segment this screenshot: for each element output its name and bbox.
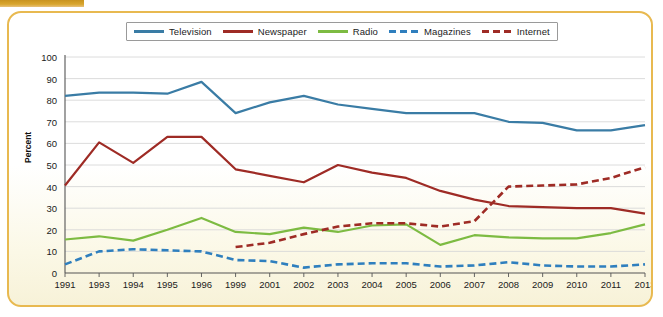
y-tick-label: 50 [31, 160, 57, 171]
x-tick-label: 1996 [191, 279, 212, 290]
legend-swatch-newspaper-icon [223, 30, 253, 33]
x-tick-label: 2008 [498, 279, 519, 290]
plot-area: Percent 0102030405060708090100 199119931… [9, 51, 653, 303]
legend-label: Television [169, 26, 212, 37]
x-tick-label: 1991 [54, 279, 75, 290]
series-line-radio [65, 218, 645, 245]
legend-item-magazines: Magazines [389, 26, 471, 37]
y-tick-label: 90 [31, 73, 57, 84]
x-tick-label: 2002 [293, 279, 314, 290]
legend-swatch-radio-icon [318, 30, 348, 33]
legend-swatch-magazines-icon [389, 30, 419, 33]
legend-item-television: Television [134, 26, 212, 37]
y-tick-label: 30 [31, 203, 57, 214]
legend-label: Magazines [424, 26, 471, 37]
x-tick-label: 2001 [259, 279, 280, 290]
x-tick-label: 1999 [225, 279, 246, 290]
x-tick-label: 2009 [532, 279, 553, 290]
top-accent-bar [0, 0, 84, 7]
legend-label: Internet [517, 26, 550, 37]
y-tick-label: 70 [31, 116, 57, 127]
x-tick-label: 1994 [123, 279, 144, 290]
y-tick-label: 80 [31, 95, 57, 106]
series-line-magazines [65, 249, 645, 267]
y-axis-ticks: 0102030405060708090100 [31, 51, 57, 303]
chart-canvas [9, 51, 653, 303]
y-tick-label: 100 [31, 52, 57, 63]
y-tick-label: 20 [31, 224, 57, 235]
legend-item-radio: Radio [318, 26, 378, 37]
series-line-television [65, 82, 645, 131]
x-tick-label: 2010 [566, 279, 587, 290]
x-tick-label: 2006 [430, 279, 451, 290]
x-tick-label: 2011 [601, 279, 621, 290]
x-tick-label: 1993 [89, 279, 110, 290]
y-tick-label: 10 [31, 246, 57, 257]
x-tick-label: 2013 [634, 279, 653, 290]
chart-frame: TelevisionNewspaperRadioMagazinesInterne… [7, 11, 653, 307]
chart-root: TelevisionNewspaperRadioMagazinesInterne… [0, 0, 663, 317]
x-tick-label: 2007 [464, 279, 485, 290]
y-tick-label: 0 [31, 268, 57, 279]
y-tick-label: 40 [31, 181, 57, 192]
legend-swatch-television-icon [134, 30, 164, 33]
legend-label: Newspaper [258, 26, 307, 37]
series-line-newspaper [65, 137, 645, 214]
legend-item-newspaper: Newspaper [223, 26, 307, 37]
x-tick-label: 2003 [327, 279, 348, 290]
x-tick-label: 2005 [396, 279, 417, 290]
x-tick-label: 2004 [361, 279, 382, 290]
chart-legend: TelevisionNewspaperRadioMagazinesInterne… [126, 22, 558, 41]
legend-swatch-internet-icon [482, 30, 512, 33]
x-tick-label: 1995 [157, 279, 178, 290]
y-tick-label: 60 [31, 138, 57, 149]
legend-label: Radio [353, 26, 378, 37]
legend-item-internet: Internet [482, 26, 550, 37]
